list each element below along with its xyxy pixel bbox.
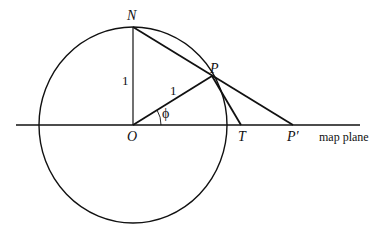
diagram-canvas — [0, 0, 378, 232]
segment-label-OP: 1 — [170, 84, 177, 97]
point-label-T: T — [238, 130, 246, 144]
projection-diagram: N 1 1 P ϕ O T P′ map plane — [0, 0, 378, 232]
map-plane-label: map plane — [319, 131, 369, 143]
angle-arc-phi — [157, 110, 161, 125]
point-label-O: O — [127, 130, 137, 144]
point-label-N: N — [127, 9, 136, 23]
segment-label-ON: 1 — [122, 74, 129, 87]
angle-label-phi: ϕ — [162, 107, 169, 121]
point-label-P-prime: P′ — [287, 130, 299, 144]
point-label-P: P — [210, 62, 219, 76]
